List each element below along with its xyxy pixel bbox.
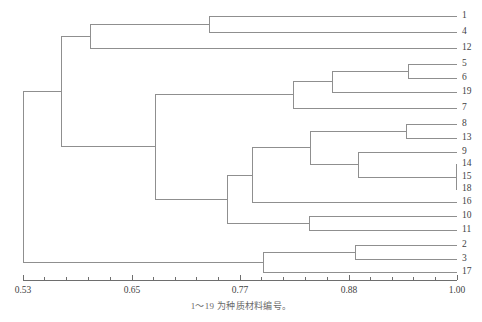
leaf-label-8: 8 — [462, 119, 467, 129]
leaf-label-1: 1 — [462, 11, 467, 21]
dendrogram-figure: 14125619781391415181610112317 0.530.650.… — [0, 0, 482, 322]
figure-caption: 1～19 为种质材料编号。 — [0, 299, 482, 312]
leaf-label-10: 10 — [462, 211, 472, 221]
x-axis-tick-label-4: 1.00 — [449, 286, 466, 296]
leaf-label-14: 14 — [462, 159, 472, 169]
leaf-label-2: 2 — [462, 240, 467, 250]
leaf-label-7: 7 — [462, 103, 467, 113]
x-axis-tick-label-3: 0.88 — [341, 286, 358, 296]
leaf-label-19: 19 — [462, 87, 472, 97]
leaf-label-16: 16 — [462, 197, 472, 207]
leaf-label-15: 15 — [462, 172, 472, 182]
x-axis-tick-label-1: 0.65 — [124, 286, 141, 296]
leaf-label-6: 6 — [462, 73, 467, 83]
leaf-label-5: 5 — [462, 59, 467, 69]
leaf-label-4: 4 — [462, 27, 467, 37]
x-axis-tick-label-0: 0.53 — [15, 286, 32, 296]
leaf-label-9: 9 — [462, 147, 467, 157]
x-axis-tick-label-2: 0.77 — [232, 286, 249, 296]
leaf-label-11: 11 — [462, 225, 471, 235]
dendrogram-canvas — [0, 0, 482, 322]
leaf-label-13: 13 — [462, 133, 472, 143]
leaf-label-17: 17 — [462, 267, 472, 277]
leaf-label-18: 18 — [462, 184, 472, 194]
leaf-label-3: 3 — [462, 254, 467, 264]
leaf-label-12: 12 — [462, 43, 472, 53]
